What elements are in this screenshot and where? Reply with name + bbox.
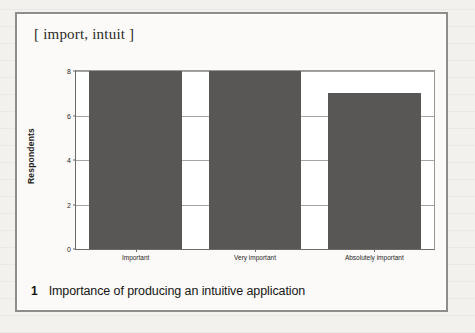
y-axis-tick-label: 4 (67, 157, 71, 164)
x-axis-tick-mark (255, 249, 256, 252)
y-axis-title-label: Respondents (26, 128, 36, 184)
y-axis-tick-label: 6 (67, 112, 71, 119)
bar (89, 71, 181, 249)
figure-caption: 1 Importance of producing an intuitive a… (31, 284, 432, 298)
x-axis-tick-mark (374, 249, 375, 252)
x-axis-category-label: Absolutely important (345, 254, 404, 261)
y-axis-tick-label: 2 (67, 201, 71, 208)
x-axis-category-label: Very important (234, 254, 276, 261)
caption-text: Importance of producing an intuitive app… (49, 284, 305, 298)
y-axis-tick-label: 8 (67, 68, 71, 75)
x-axis-category-label: Important (122, 254, 149, 261)
y-axis-tick-mark (73, 249, 76, 250)
y-axis-title: Respondents (21, 56, 41, 256)
plot-area: 02468ImportantVery importantAbsolutely i… (75, 70, 435, 250)
bar (209, 71, 301, 249)
caption-number: 1 (31, 284, 38, 298)
figure-container: [ import, intuit ] Respondents 02468Impo… (15, 12, 448, 312)
bar (328, 93, 420, 249)
y-axis-tick-label: 0 (67, 246, 71, 253)
x-axis-tick-mark (136, 249, 137, 252)
index-entry-header: [ import, intuit ] (34, 26, 134, 43)
bar-chart: Respondents 02468ImportantVery important… (27, 56, 440, 271)
